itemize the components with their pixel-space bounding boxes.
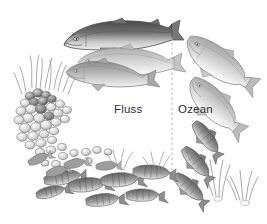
label-fluss: Fluss: [114, 104, 142, 116]
salmon-life-cycle-figure: Fluss Ozean: [0, 0, 267, 224]
gravel-redd-illustration: [14, 89, 112, 168]
seaweed-cluster-illustration: [202, 160, 258, 206]
label-ozean: Ozean: [178, 104, 213, 116]
